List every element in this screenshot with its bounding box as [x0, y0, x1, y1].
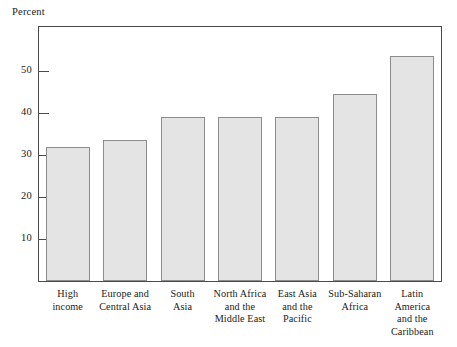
y-tick-label: 30	[0, 148, 32, 159]
x-axis-category-label: Sub-Saharan Africa	[326, 288, 383, 313]
y-tick-label: 20	[0, 190, 32, 201]
x-axis-category-label: Latin America and the Caribbean	[384, 288, 441, 338]
bar	[103, 140, 147, 281]
bar	[275, 117, 319, 281]
bar	[390, 56, 434, 281]
x-axis-category-label: North Africa and the Middle East	[211, 288, 268, 326]
x-axis-category-label: South Asia	[154, 288, 211, 313]
x-axis-category-label: High income	[39, 288, 96, 313]
y-tick-label: 10	[0, 232, 32, 243]
y-axis-title: Percent	[12, 6, 45, 17]
bar	[46, 147, 90, 281]
y-tick-label: 50	[0, 64, 32, 75]
bar	[218, 117, 262, 281]
bar-chart-figure: Percent 1020304050 High incomeEurope and…	[0, 0, 457, 347]
x-axis-category-label: East Asia and the Pacific	[269, 288, 326, 326]
y-tick-line	[38, 71, 49, 72]
x-axis-category-label: Europe and Central Asia	[96, 288, 153, 313]
y-tick-label: 40	[0, 106, 32, 117]
y-tick-line	[38, 113, 49, 114]
bar	[333, 94, 377, 281]
bar	[161, 117, 205, 281]
